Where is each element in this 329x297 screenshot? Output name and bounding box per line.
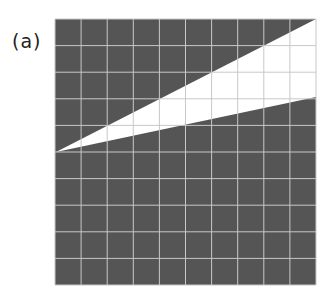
grid-diagram <box>0 0 329 297</box>
